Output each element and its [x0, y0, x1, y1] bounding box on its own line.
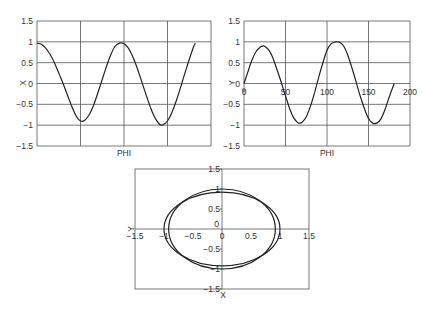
y-tick-label: 0: [28, 79, 33, 89]
x-tick-label: 0.5: [245, 231, 257, 241]
right-x-axis-label: PHI: [320, 148, 334, 158]
y-tick-label: −0.5: [16, 99, 33, 109]
y-tick-label: −1.5: [203, 284, 220, 294]
bottom-x-axis-label: X: [220, 290, 226, 300]
y-tick-label: −1.5: [16, 141, 33, 151]
x-tick-label: 200: [403, 87, 417, 97]
x-tick-label: 150: [361, 87, 375, 97]
left-y-axis-label: X: [18, 80, 28, 86]
y-tick-label: 1: [28, 37, 33, 47]
y-tick-label: 1: [235, 37, 240, 47]
bottom-x-tick-labels: −1.5−1−0.500.511.5: [127, 231, 316, 241]
y-tick-label: 0.5: [21, 58, 33, 68]
y-tick-label: −1: [23, 120, 33, 130]
x-tick-label: 0: [220, 231, 225, 241]
left-x-axis-label: PHI: [117, 148, 131, 158]
chart-y-vs-phi: 1.510.50−0.5−1−1.5 050100150200 Y PHI: [223, 16, 417, 158]
y-tick-label: 1.5: [208, 164, 220, 174]
y-tick-label: −1: [230, 120, 240, 130]
x-tick-label: 100: [320, 87, 334, 97]
x-tick-label: −0.5: [185, 231, 202, 241]
origin-marker: [242, 88, 246, 92]
chart-y-vs-x: −1.5−1−0.500.511.5 1.510.50−0.5−1−1.5 Y …: [126, 164, 315, 300]
y-tick-label: −0.5: [223, 99, 240, 109]
y-tick-label: 1.5: [228, 16, 240, 26]
right-grid: [244, 21, 410, 146]
chart-x-vs-phi: 1.510.50−0.5−1−1.5 X PHI: [16, 16, 211, 158]
x-curve: [37, 43, 195, 125]
x-tick-label: 1.5: [303, 231, 315, 241]
figure-canvas: 1.510.50−0.5−1−1.5 X PHI 1.510.50−0.5−1−…: [0, 0, 427, 312]
bottom-y-axis-label: Y: [126, 226, 136, 232]
y-tick-label: −1.5: [223, 141, 240, 151]
y-tick-label: 0.5: [208, 204, 220, 214]
y-tick-label: 0: [214, 219, 219, 229]
y-tick-label: 0.5: [228, 58, 240, 68]
y-tick-label: −0.5: [203, 244, 220, 254]
y-tick-label: 1.5: [21, 16, 33, 26]
right-y-axis-label: Y: [227, 80, 237, 86]
y-curve: [244, 42, 394, 124]
